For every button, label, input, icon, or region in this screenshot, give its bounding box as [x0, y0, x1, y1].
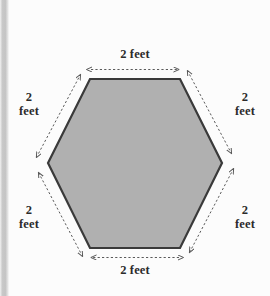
hexagon-diagram: [0, 0, 270, 296]
dimension-label-bottom-right: 2 feet: [222, 204, 268, 231]
dimension-label-top-left: 2 feet: [6, 91, 52, 118]
dimension-label-bottom: 2 feet: [85, 264, 185, 278]
dimension-label-top: 2 feet: [85, 48, 185, 62]
dimension-label-bottom-left: 2 feet: [6, 204, 52, 231]
hexagon-shape: [48, 79, 222, 248]
figure-canvas: 2 feet 2 feet 2 feet 2 feet 2 feet 2 fee…: [0, 0, 270, 296]
dimension-label-top-right: 2 feet: [222, 91, 268, 118]
